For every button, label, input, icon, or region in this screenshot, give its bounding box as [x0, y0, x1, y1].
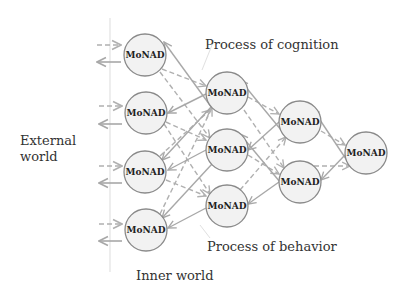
external-world-line2: world — [20, 149, 76, 165]
monad-node: MoNAD — [206, 72, 248, 114]
monad-network-diagram: MoNADMoNADMoNADMoNADMoNADMoNADMoNADMoNAD… — [0, 0, 408, 296]
monad-node: MoNAD — [279, 101, 321, 143]
monad-node-label: MoNAD — [126, 167, 165, 177]
monad-node: MoNAD — [125, 209, 167, 251]
monad-node: MoNAD — [345, 132, 387, 174]
process-of-cognition-label: Process of cognition — [205, 37, 339, 53]
monad-node-label: MoNAD — [208, 88, 247, 98]
monad-node-label: MoNAD — [127, 225, 166, 235]
monad-node-label: MoNAD — [347, 148, 386, 158]
monad-node-label: MoNAD — [127, 108, 166, 118]
monad-node: MoNAD — [279, 161, 321, 203]
monad-node: MoNAD — [124, 34, 166, 76]
behavior-pointer-line — [200, 225, 210, 238]
inner-world-label: Inner world — [136, 268, 214, 284]
monad-node-label: MoNAD — [126, 50, 165, 60]
monad-node-label: MoNAD — [208, 201, 247, 211]
monad-node: MoNAD — [124, 151, 166, 193]
monad-node: MoNAD — [125, 92, 167, 134]
behavior-connections — [162, 42, 352, 228]
monad-node: MoNAD — [206, 185, 248, 227]
monad-node-label: MoNAD — [281, 177, 320, 187]
monad-node: MoNAD — [206, 129, 248, 171]
external-world-line1: External — [20, 133, 76, 149]
monad-node-label: MoNAD — [281, 117, 320, 127]
external-world-label: External world — [20, 133, 76, 165]
cognition-connections — [160, 69, 350, 214]
monad-node-label: MoNAD — [208, 145, 247, 155]
process-of-behavior-label: Process of behavior — [207, 239, 337, 255]
